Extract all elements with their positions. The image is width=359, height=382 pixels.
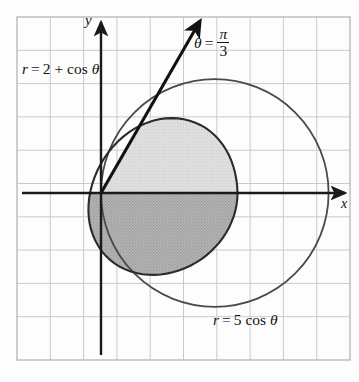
circle-expression: 5 cos (234, 311, 266, 328)
circle-theta-symbol: θ (270, 311, 278, 328)
y-axis-label-text: y (85, 12, 92, 28)
fraction-numerator-pi: π (217, 26, 229, 43)
ray-equals: = (205, 34, 214, 51)
polar-diagram-svg (0, 0, 359, 382)
pi-over-three-fraction: π 3 (216, 26, 230, 59)
fraction-denominator-three: 3 (217, 43, 229, 59)
limacon-theta-symbol: θ (92, 60, 100, 77)
limacon-r-symbol: r (22, 60, 28, 77)
limacon-equation-label: r=2 + cosθ (22, 60, 99, 78)
circle-equation-label: r=5 cosθ (213, 311, 278, 329)
ray-angle-label: θ= π 3 (194, 26, 230, 59)
circle-equals: = (222, 311, 231, 328)
limacon-equals: = (31, 60, 40, 77)
x-axis-label-text: x (341, 196, 347, 211)
x-axis-label: x (341, 196, 347, 212)
limacon-expression: 2 + cos (43, 60, 88, 77)
figure-canvas: y x r=2 + cosθ r=5 cosθ θ= π 3 (0, 0, 359, 382)
ray-theta-symbol: θ (194, 34, 202, 51)
y-axis-label: y (85, 12, 92, 29)
circle-r-symbol: r (213, 311, 219, 328)
